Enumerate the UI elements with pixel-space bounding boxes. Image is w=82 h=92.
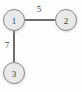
node-2[interactable]: 2 [56,10,77,31]
graph-diagram: 5 7 1 2 3 [0,0,82,92]
edge-weight-1-3: 7 [5,40,10,50]
node-3[interactable]: 3 [4,63,25,84]
node-3-label: 3 [12,69,17,79]
node-2-label: 2 [64,16,69,26]
graph-canvas: 5 7 1 2 3 [0,0,82,92]
node-1-label: 1 [12,16,17,26]
node-1[interactable]: 1 [4,10,25,31]
edge-weight-1-2: 5 [37,4,42,14]
